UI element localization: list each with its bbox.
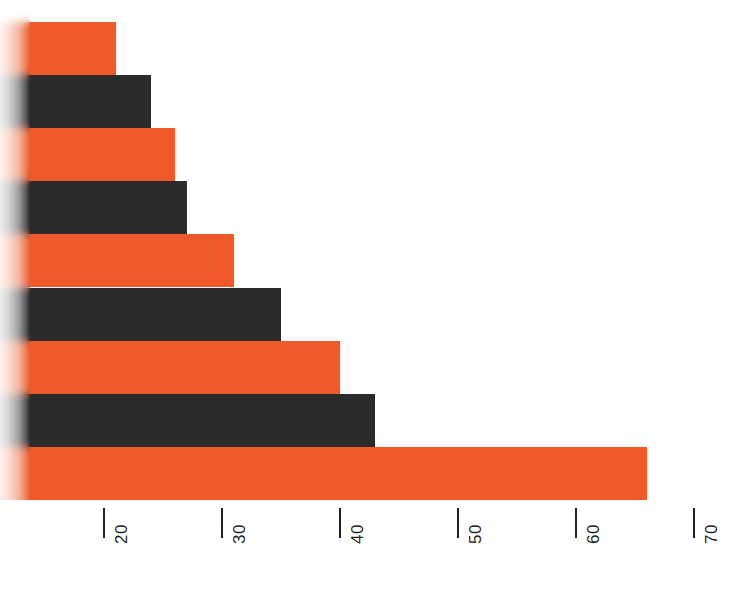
x-tick-label: 70 xyxy=(702,524,722,544)
bar xyxy=(0,288,729,341)
bar-rect xyxy=(0,288,281,341)
bar-rect xyxy=(0,394,375,447)
bar xyxy=(0,22,729,75)
bar-rect xyxy=(0,22,116,75)
x-tick-mark xyxy=(693,508,695,538)
bar xyxy=(0,341,729,394)
x-tick-label: 60 xyxy=(584,524,604,544)
x-tick-label: 50 xyxy=(466,524,486,544)
x-axis: 203040506070 xyxy=(0,500,729,606)
x-tick-label: 30 xyxy=(230,524,250,544)
bar xyxy=(0,75,729,128)
bar-rect xyxy=(0,234,234,287)
x-tick-mark xyxy=(339,508,341,538)
bar xyxy=(0,181,729,234)
x-tick-mark xyxy=(103,508,105,538)
bar-rect xyxy=(0,181,187,234)
x-tick-label: 40 xyxy=(348,524,368,544)
x-tick-label: 20 xyxy=(112,524,132,544)
bar xyxy=(0,394,729,447)
x-tick-mark xyxy=(457,508,459,538)
bar xyxy=(0,447,729,500)
x-tick-mark xyxy=(575,508,577,538)
bar-chart: 203040506070 xyxy=(0,0,729,606)
bar-rect xyxy=(0,75,151,128)
plot-area xyxy=(0,0,729,500)
bar xyxy=(0,128,729,181)
bar-rect xyxy=(0,341,340,394)
bar-rect xyxy=(0,447,647,500)
x-tick-mark xyxy=(221,508,223,538)
bar xyxy=(0,234,729,287)
bar-rect xyxy=(0,128,175,181)
